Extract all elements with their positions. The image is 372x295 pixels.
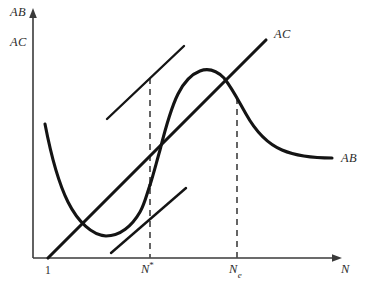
x-tick-label-n-e: Ne: [229, 263, 241, 276]
y-axis-label-ac: AC: [10, 36, 27, 49]
x-axis-arrowhead: [332, 254, 342, 262]
tangent-line-lower: [111, 188, 186, 253]
x-tick-n-star-superscript: *: [149, 260, 154, 270]
ab-curve-left-segment: [45, 124, 150, 236]
x-tick-n-e-subscript: e: [238, 270, 242, 280]
x-tick-label-one: 1: [45, 265, 51, 277]
x-axis-label-n: N: [341, 263, 349, 276]
x-tick-label-n-star: N*: [141, 263, 154, 276]
economics-figure: AB AC AC AB 1 N* Ne N: [0, 0, 372, 295]
y-axis-label-ab: AB: [10, 6, 26, 19]
ac-curve-label: AC: [274, 28, 291, 41]
figure-canvas: [0, 0, 372, 295]
x-tick-n-e-base: N: [229, 262, 237, 276]
ab-curve-label: AB: [341, 152, 357, 165]
y-axis-arrowhead: [29, 8, 37, 18]
